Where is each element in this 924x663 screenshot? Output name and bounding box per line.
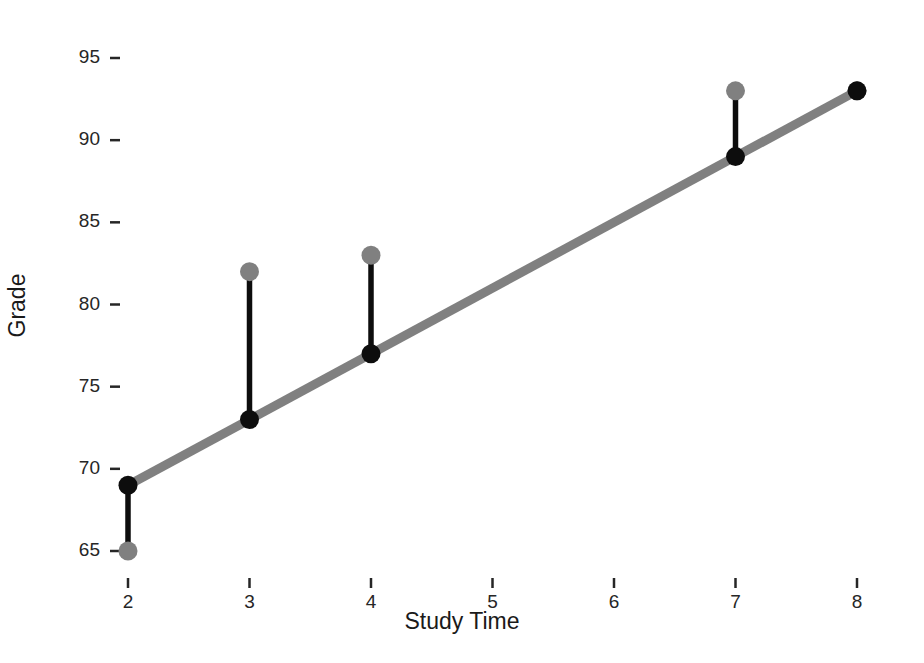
fitted-point (848, 81, 867, 100)
observed-point (726, 81, 745, 100)
x-axis-tick-marks (128, 578, 857, 588)
y-tick-label: 95 (48, 46, 100, 68)
y-tick-label: 65 (48, 539, 100, 561)
y-axis-tick-marks (110, 58, 120, 551)
y-tick-label: 90 (48, 128, 100, 150)
fitted-point (362, 344, 381, 363)
observed-point (119, 542, 138, 561)
fitted-point (726, 147, 745, 166)
observed-data-points (119, 81, 867, 560)
x-axis-title: Study Time (0, 608, 924, 635)
residual-scatter-chart: 65707580859095 2345678 Grade Study Time (0, 0, 924, 663)
y-tick-label: 80 (48, 293, 100, 315)
fitted-point (240, 410, 259, 429)
plot-area (0, 0, 924, 663)
y-tick-label: 85 (48, 210, 100, 232)
fitted-point (119, 476, 138, 495)
y-axis-title: Grade (4, 226, 31, 386)
y-tick-label: 75 (48, 375, 100, 397)
regression-line (128, 91, 857, 485)
observed-point (240, 262, 259, 281)
observed-point (362, 246, 381, 265)
y-tick-label: 70 (48, 457, 100, 479)
regression-line-path (128, 91, 857, 485)
